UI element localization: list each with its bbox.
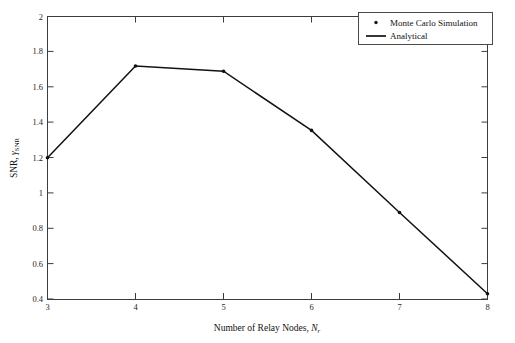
- x-axis-title-subscript: r: [318, 327, 321, 334]
- y-tick-label: 0.8: [32, 223, 43, 233]
- svg-text:Number of Relay Nodes, Nr: Number of Relay Nodes, Nr: [214, 323, 321, 334]
- chart-figure: 0.4 0.6 0.8 1 1.2 1.4 1.6 1.8 2 3 4 5 6 …: [0, 0, 515, 343]
- y-tick-label: 1.2: [32, 153, 43, 163]
- data-point-marker: [398, 211, 402, 215]
- snr-vs-relay-nodes-chart: 0.4 0.6 0.8 1 1.2 1.4 1.6 1.8 2 3 4 5 6 …: [0, 0, 515, 343]
- x-tick-label: 6: [309, 302, 313, 312]
- y-tick-label: 0.4: [32, 294, 43, 304]
- chart-legend[interactable]: Monte Carlo Simulation Analytical: [359, 13, 493, 45]
- y-tick-label: 1.6: [32, 82, 43, 92]
- dot-marker-icon: [374, 21, 377, 24]
- data-point-marker: [222, 69, 226, 73]
- data-point-marker: [46, 156, 50, 160]
- x-tick-label: 3: [45, 302, 49, 312]
- x-tick-label: 8: [485, 302, 489, 312]
- figure-background: [0, 0, 515, 343]
- x-tick-label: 7: [397, 302, 401, 312]
- x-tick-label: 5: [221, 302, 225, 312]
- data-point-marker: [134, 64, 138, 68]
- y-tick-labels: 0.4 0.6 0.8 1 1.2 1.4 1.6 1.8 2: [32, 12, 43, 305]
- data-point-marker: [310, 129, 314, 133]
- x-axis-title: Number of Relay Nodes, Nr: [214, 323, 321, 334]
- y-tick-label: 1.8: [32, 46, 43, 56]
- legend-item-analytical-label: Analytical: [390, 31, 428, 41]
- x-axis-title-text: Number of Relay Nodes,: [214, 323, 311, 333]
- y-tick-label: 1: [39, 188, 43, 198]
- y-tick-label: 1.4: [32, 117, 43, 127]
- y-axis-title-text: SNR,: [9, 155, 19, 178]
- data-point-marker: [486, 292, 490, 296]
- y-tick-label: 0.6: [32, 259, 43, 269]
- y-tick-label: 2: [39, 12, 43, 22]
- y-axis-title-subscript: SNR: [13, 137, 20, 151]
- legend-item-monte-carlo-label: Monte Carlo Simulation: [390, 18, 478, 28]
